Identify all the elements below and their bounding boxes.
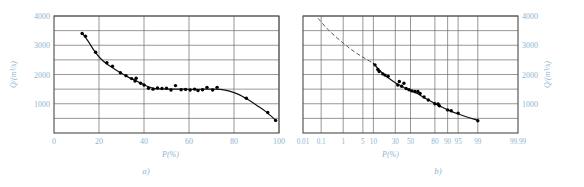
x-tick-label-b: 5 [361,138,365,146]
x-tick-label-a: 20 [95,137,103,146]
data-point [438,104,441,107]
data-point [396,83,399,86]
data-point [407,88,410,91]
data-point [400,85,403,88]
y-tick-label-a: 3000 [34,41,50,50]
x-tick-label-a: 60 [185,137,193,146]
x-tick-label-a: 0 [52,137,56,146]
data-point [130,77,133,80]
data-point [179,88,182,91]
x-tick-label-b: 80 [431,138,439,146]
data-point [404,87,407,90]
y-tick-label-b: 3000 [522,41,538,50]
data-point [124,74,127,77]
data-point [211,88,214,91]
fitted-curve-a [82,33,276,120]
chart-panel-a: 0204060801001000200030004000P(%)Q/(m³/s)… [0,0,292,187]
y-tick-label-b: 1000 [522,100,538,109]
data-point [456,111,459,114]
data-point [205,86,208,89]
y-axis-label-a: Q/(m³/s) [9,61,18,88]
data-point [193,87,196,90]
data-point [413,90,416,93]
y-tick-label-a: 4000 [34,12,50,21]
data-point [188,88,191,91]
data-point [215,86,218,89]
data-point [147,87,150,90]
x-tick-label-b: 30 [392,138,400,146]
data-point [274,119,277,122]
data-point [373,63,376,66]
data-point [80,32,83,35]
fitted-curve-b [373,63,477,120]
data-point [402,82,405,85]
data-point [151,87,154,90]
chart-panel-b: 0.010.1151030508090959999.99100020003000… [292,0,584,187]
chart-b-svg: 0.010.1151030508090959999.99100020003000… [292,0,584,187]
data-point [84,34,87,37]
x-tick-label-a: 40 [140,137,148,146]
y-tick-label-b: 4000 [522,12,538,21]
x-axis-b: 0.010.1151030508090959999.99 [297,138,527,146]
data-point [427,98,430,101]
y-axis-label-b: Q/(m³/s) [543,61,552,88]
x-tick-label-b: 0.01 [297,138,310,146]
data-point [398,80,401,83]
data-point [184,88,187,91]
dashed-extrapolation-line-b [318,18,373,63]
chart-a-svg: 0204060801001000200030004000P(%)Q/(m³/s) [0,0,292,187]
x-axis-label-a: P(%) [161,150,179,159]
data-point [201,88,204,91]
data-point [266,111,269,114]
y-tick-label-b: 2000 [522,71,538,80]
data-point [476,119,479,122]
grid-lines-a [54,16,279,133]
data-point [410,89,413,92]
data-point [386,75,389,78]
data-point [383,73,386,76]
panel-b-caption: b) [292,166,584,176]
data-point [160,87,163,90]
data-point [105,61,108,64]
data-point [418,92,421,95]
y-tick-label-a: 1000 [34,100,50,109]
data-point [450,109,453,112]
x-tick-label-b: 90 [444,138,452,146]
y-axis-a: 1000200030004000 [34,12,50,109]
data-point [119,71,122,74]
x-tick-label-b: 10 [370,138,378,146]
x-tick-label-b: 99 [474,138,482,146]
data-point [134,77,137,80]
data-point [422,95,425,98]
data-point [446,108,449,111]
data-point [196,89,199,92]
y-axis-b: 1000200030004000 [522,12,538,109]
y-tick-label-a: 2000 [34,71,50,80]
data-points-b [373,63,479,122]
data-point [378,70,381,73]
x-tick-label-b: 99.99 [510,138,527,146]
x-tick-label-b: 95 [455,138,463,146]
data-point [94,51,97,54]
grid-lines-b [303,16,518,133]
x-tick-label-a: 100 [273,137,285,146]
x-tick-label-b: 1 [341,138,345,146]
figure-container: 0204060801001000200030004000P(%)Q/(m³/s)… [0,0,584,187]
data-point [142,83,145,86]
data-point [174,84,177,87]
x-axis-label-b: P(%) [381,150,399,159]
data-point [169,88,172,91]
data-point [165,87,168,90]
data-point [433,102,436,105]
data-point [111,65,114,68]
panel-a-caption: a) [0,166,292,176]
data-point [156,86,159,89]
data-point [139,82,142,85]
x-tick-label-a: 80 [230,137,238,146]
x-axis-a: 020406080100 [52,137,285,146]
data-point [245,96,248,99]
x-tick-label-b: 0.1 [317,138,326,146]
x-tick-label-b: 50 [407,138,415,146]
